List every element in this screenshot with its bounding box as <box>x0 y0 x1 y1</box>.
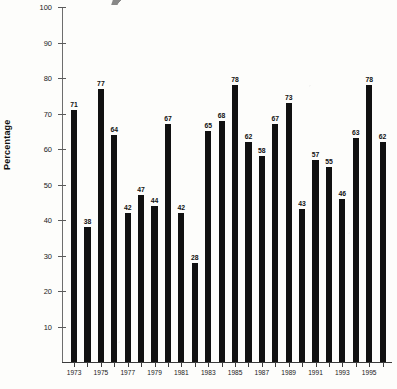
y-axis-tick: 40 <box>58 220 66 221</box>
bar-value-label: 78 <box>231 76 239 83</box>
y-axis-tick: 60 <box>58 149 66 150</box>
bar-value-label: 57 <box>312 151 320 158</box>
y-axis-tick-label: 50 <box>44 180 52 189</box>
y-axis-tick-label: 100 <box>39 3 52 12</box>
x-axis-tick <box>289 363 290 367</box>
x-axis-tick <box>302 363 303 367</box>
y-axis-tick-label: 30 <box>44 251 52 260</box>
bar-value-label: 67 <box>272 115 280 122</box>
x-axis-tick <box>155 363 156 367</box>
x-axis-tick-label: 1995 <box>362 369 377 376</box>
bar: 78 <box>366 85 372 362</box>
bar: 67 <box>272 124 278 362</box>
bar-value-label: 67 <box>164 115 172 122</box>
y-axis-tick: 10 <box>58 327 66 328</box>
x-axis-tick-label: 1973 <box>67 369 82 376</box>
x-axis-tick <box>181 363 182 367</box>
bar-value-label: 78 <box>365 76 373 83</box>
plot-area: 102030405060708090100 713877644247446742… <box>62 8 392 363</box>
y-axis-tick-label: 10 <box>44 322 52 331</box>
bar: 38 <box>84 227 90 362</box>
bar-value-label: 46 <box>339 190 347 197</box>
bar: 44 <box>151 206 157 362</box>
x-axis-tick-label: 1977 <box>120 369 135 376</box>
bar: 67 <box>165 124 171 362</box>
bar-value-label: 71 <box>70 101 78 108</box>
bar: 78 <box>232 85 238 362</box>
y-axis-tick: 100 <box>58 7 66 8</box>
x-axis-tick-label: 1987 <box>255 369 270 376</box>
bar-value-label: 38 <box>84 218 92 225</box>
x-axis-tick <box>195 363 196 367</box>
x-axis-tick <box>168 363 169 367</box>
x-axis-tick <box>356 363 357 367</box>
bar-value-label: 68 <box>218 112 226 119</box>
x-axis-tick-label: 1985 <box>228 369 243 376</box>
x-axis-tick <box>222 363 223 367</box>
y-axis-tick: 80 <box>58 78 66 79</box>
y-axis-tick: 20 <box>58 291 66 292</box>
y-axis-tick: 50 <box>58 185 66 186</box>
x-axis-tick <box>87 363 88 367</box>
x-axis-tick <box>208 363 209 367</box>
bar-value-label: 73 <box>285 94 293 101</box>
bar-value-label: 64 <box>111 126 119 133</box>
x-axis-tick <box>342 363 343 367</box>
bar: 57 <box>312 160 318 362</box>
bar-value-label: 58 <box>258 147 266 154</box>
x-axis-tick <box>248 363 249 367</box>
bar-value-label: 47 <box>137 186 145 193</box>
x-axis-tick <box>369 363 370 367</box>
bar: 64 <box>111 135 117 362</box>
bar: 42 <box>125 213 131 362</box>
bar-value-label: 62 <box>245 133 253 140</box>
bar-value-label: 44 <box>151 197 159 204</box>
y-axis-line <box>62 8 63 363</box>
bar: 46 <box>339 199 345 362</box>
bar: 77 <box>98 89 104 362</box>
bar-value-label: 42 <box>124 204 132 211</box>
bar-value-label: 62 <box>379 133 387 140</box>
bar-value-label: 65 <box>204 122 212 129</box>
x-axis-tick <box>383 363 384 367</box>
x-axis-tick <box>316 363 317 367</box>
bar-value-label: 55 <box>325 158 333 165</box>
x-axis-tick <box>329 363 330 367</box>
bar: 55 <box>326 167 332 362</box>
chart-page: Percentage 102030405060708090100 7138776… <box>0 0 397 389</box>
y-axis-tick-label: 80 <box>44 74 52 83</box>
y-axis-tick-label: 60 <box>44 145 52 154</box>
x-axis-tick <box>275 363 276 367</box>
x-axis-tick <box>101 363 102 367</box>
bar: 62 <box>380 142 386 362</box>
x-axis-tick <box>74 363 75 367</box>
bar-value-label: 77 <box>97 80 105 87</box>
bar: 58 <box>259 156 265 362</box>
x-axis-tick <box>114 363 115 367</box>
bar: 73 <box>286 103 292 362</box>
x-axis-tick <box>141 363 142 367</box>
cropped-title-artifact <box>111 0 131 5</box>
x-axis-tick <box>262 363 263 367</box>
bar-value-label: 63 <box>352 129 360 136</box>
bar-value-label: 42 <box>178 204 186 211</box>
bar: 47 <box>138 195 144 362</box>
x-axis-tick-label: 1979 <box>147 369 162 376</box>
bar: 71 <box>71 110 77 362</box>
bar: 43 <box>299 209 305 362</box>
bar: 62 <box>245 142 251 362</box>
bar-value-label: 43 <box>298 200 306 207</box>
x-axis-tick-label: 1989 <box>281 369 296 376</box>
x-axis-tick-label: 1993 <box>335 369 350 376</box>
bar: 68 <box>219 121 225 362</box>
y-axis-tick: 90 <box>58 43 66 44</box>
y-axis-tick-label: 20 <box>44 287 52 296</box>
x-axis-tick-label: 1981 <box>174 369 189 376</box>
bar: 28 <box>192 263 198 362</box>
bar: 63 <box>353 138 359 362</box>
y-axis-tick-label: 70 <box>44 109 52 118</box>
y-axis-tick: 30 <box>58 256 66 257</box>
y-axis-tick-label: 90 <box>44 38 52 47</box>
y-axis-tick-label: 40 <box>44 216 52 225</box>
x-axis-tick <box>128 363 129 367</box>
